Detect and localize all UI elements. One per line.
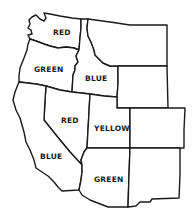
- region-colorado: [130, 108, 185, 148]
- western-us-map: RED GREEN BLUE RED BLUE YELLOW GREEN: [0, 0, 194, 218]
- label-nevada: RED: [61, 116, 79, 125]
- label-washington: RED: [53, 28, 71, 37]
- label-oregon: GREEN: [34, 65, 63, 74]
- label-california: BLUE: [40, 152, 62, 161]
- region-montana: [87, 19, 167, 66]
- label-idaho: BLUE: [85, 74, 107, 83]
- label-utah: YELLOW: [93, 124, 130, 133]
- region-new-mexico: [128, 148, 180, 207]
- label-arizona: GREEN: [94, 175, 123, 184]
- region-wyoming: [117, 66, 168, 108]
